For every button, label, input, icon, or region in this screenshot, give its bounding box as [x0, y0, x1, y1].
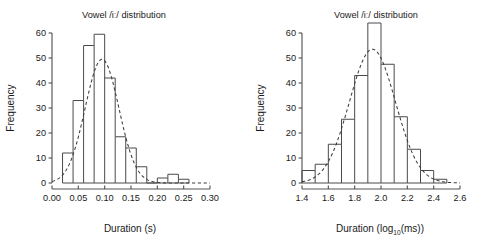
left-xtick-label: 0.05 [69, 193, 87, 203]
left-ytick-label: 10 [36, 153, 46, 163]
right-xtick-label: 1.6 [322, 193, 335, 203]
right-ytick-label: 0 [291, 178, 296, 188]
figure-two-histograms: Vowel /iː/ distribution 0102030405060 0.… [0, 0, 495, 242]
right-x-axis-label-base: Duration (log [336, 223, 393, 234]
left-histogram-bars [63, 34, 189, 183]
right-ytick-label: 40 [286, 78, 296, 88]
right-y-axis-label: Frequency [255, 84, 266, 131]
left-ytick-label: 50 [36, 53, 46, 63]
panel-right-duration-log-ms: Vowel /iː/ distribution 0102030405060 1.… [248, 0, 495, 242]
right-xtick-label: 2.6 [454, 193, 467, 203]
right-y-axis: 0102030405060 [286, 28, 302, 188]
left-y-axis: 0102030405060 [36, 28, 52, 188]
right-ytick-label: 20 [286, 128, 296, 138]
right-x-axis-label-tail: (ms)) [401, 223, 424, 234]
left-xtick-label: 0.15 [122, 193, 140, 203]
right-xtick-label: 2.2 [401, 193, 414, 203]
right-xtick-label: 2.0 [375, 193, 388, 203]
right-xtick-label: 2.4 [427, 193, 440, 203]
left-density-curve [52, 59, 210, 183]
right-chart-svg: Vowel /iː/ distribution 0102030405060 1.… [248, 0, 495, 242]
left-ytick-label: 0 [41, 178, 46, 188]
left-ytick-label: 60 [36, 28, 46, 38]
right-ytick-label: 50 [286, 53, 296, 63]
left-ytick-label: 20 [36, 128, 46, 138]
left-xtick-label: 0.20 [148, 193, 166, 203]
left-xtick-label: 0.25 [175, 193, 193, 203]
left-ytick-label: 40 [36, 78, 46, 88]
left-chart-svg: Vowel /iː/ distribution 0102030405060 0.… [0, 0, 247, 242]
right-ytick-label: 60 [286, 28, 296, 38]
right-x-axis: 1.41.61.82.02.22.42.6 [296, 186, 467, 203]
right-ytick-label: 30 [286, 103, 296, 113]
left-xtick-label: 0.30 [201, 193, 219, 203]
left-xtick-label: 0.00 [43, 193, 61, 203]
left-y-axis-label: Frequency [5, 84, 16, 131]
right-x-axis-label: Duration (log10(ms)) [336, 223, 424, 236]
left-chart-title: Vowel /iː/ distribution [82, 10, 166, 20]
panel-left-duration-seconds: Vowel /iː/ distribution 0102030405060 0.… [0, 0, 247, 242]
left-ytick-label: 30 [36, 103, 46, 113]
right-ytick-label: 10 [286, 153, 296, 163]
right-histogram-bars [302, 23, 447, 183]
left-x-axis: 0.000.050.100.150.200.250.30 [43, 186, 219, 203]
right-xtick-label: 1.8 [348, 193, 361, 203]
left-xtick-label: 0.10 [96, 193, 114, 203]
right-chart-title: Vowel /iː/ distribution [334, 10, 418, 20]
right-xtick-label: 1.4 [296, 193, 309, 203]
left-x-axis-label: Duration (s) [104, 223, 156, 234]
